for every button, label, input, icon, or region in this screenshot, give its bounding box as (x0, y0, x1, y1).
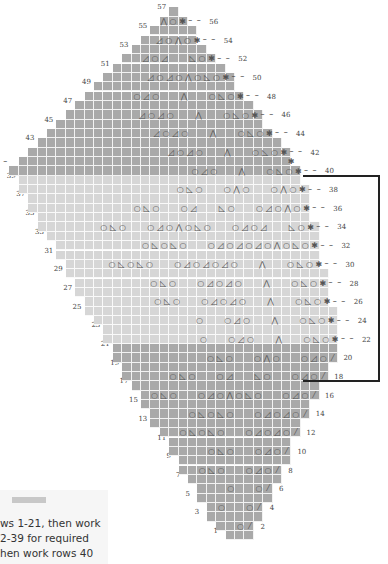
stitch-cell (244, 316, 253, 325)
stitch-cell (113, 222, 122, 231)
stitch-cell (75, 110, 84, 119)
stitch-cell (103, 120, 112, 129)
stitch-cell (273, 307, 282, 316)
stitch-cell (207, 363, 216, 372)
stitch-cell (188, 438, 197, 447)
stitch-cell (254, 391, 263, 400)
stitch-cell (132, 381, 141, 390)
stitch-cell (132, 353, 141, 362)
stitch-cell (207, 82, 216, 91)
stitch-cell (254, 269, 263, 278)
stitch-cell (113, 138, 122, 147)
stitch-cell (244, 522, 253, 531)
stitch-cell (273, 269, 282, 278)
stitch-cell (141, 391, 150, 400)
stitch-cell (263, 372, 272, 381)
stitch-cell (179, 157, 188, 166)
row-number-43: 43 (26, 134, 35, 142)
stitch-cell (226, 251, 235, 260)
stitch-cell (273, 391, 282, 400)
stitch-cell (122, 157, 131, 166)
row-number-46: 46 (282, 111, 291, 119)
stitch-cell (254, 466, 263, 475)
stitch-cell (150, 222, 159, 231)
stitch-cell (207, 428, 216, 437)
stitch-cell (38, 138, 47, 147)
stitch-cell (216, 475, 225, 484)
stitch-cell (160, 391, 169, 400)
stitch-cell (226, 82, 235, 91)
stitch-cell (235, 484, 244, 493)
stitch-cell (66, 194, 75, 203)
stitch-cell (169, 297, 178, 306)
stitch-cell (141, 400, 150, 409)
stitch-cell (254, 400, 263, 409)
stitch-cell (188, 241, 197, 250)
stitch-cell (263, 204, 272, 213)
row-number-42: 42 (311, 149, 320, 157)
stitch-cell (216, 335, 225, 344)
stitch-cell (150, 381, 159, 390)
stitch-cell (179, 166, 188, 175)
stitch-cell (75, 251, 84, 260)
stitch-cell (226, 391, 235, 400)
stitch-cell (179, 101, 188, 110)
stitch-cell (66, 110, 75, 119)
stitch-cell (273, 363, 282, 372)
stitch-cell (235, 138, 244, 147)
stitch-cell (226, 428, 235, 437)
stitch-cell (75, 269, 84, 278)
stitch-cell (132, 73, 141, 82)
stitch-cell (188, 194, 197, 203)
stitch-cell (179, 335, 188, 344)
stitch-cell (179, 185, 188, 194)
stitch-cell (122, 325, 131, 334)
stitch-cell (169, 316, 178, 325)
stitch-cell (160, 307, 169, 316)
stitch-cell (179, 54, 188, 63)
stitch-cell (141, 157, 150, 166)
stitch-cell (160, 26, 169, 35)
stitch-cell (169, 344, 178, 353)
stitch-cell (301, 381, 310, 390)
stitch-cell (103, 241, 112, 250)
stitch-cell (169, 307, 178, 316)
stitch-cell (132, 260, 141, 269)
stitch-cell (188, 138, 197, 147)
stitch-cell (197, 456, 206, 465)
stitch-cell (254, 241, 263, 250)
stitch-cell (254, 419, 263, 428)
row-number-49: 49 (82, 78, 91, 86)
stitch-cell (188, 120, 197, 129)
stitch-cell (226, 484, 235, 493)
stitch-cell (94, 110, 103, 119)
row-number-3: 3 (195, 508, 199, 516)
stitch-cell (113, 335, 122, 344)
stitch-cell (141, 194, 150, 203)
stitch-cell (85, 241, 94, 250)
stitch-cell (310, 391, 319, 400)
stitch-cell (235, 213, 244, 222)
stitch-cell (207, 447, 216, 456)
stitch-cell (169, 372, 178, 381)
row-dash-marker: – – (275, 129, 289, 137)
stitch-cell (132, 363, 141, 372)
stitch-cell (244, 222, 253, 231)
stitch-cell (226, 522, 235, 531)
stitch-cell (169, 419, 178, 428)
stitch-cell (169, 185, 178, 194)
stitch-cell (160, 129, 169, 138)
stitch-cell (244, 456, 253, 465)
stitch-cell (282, 381, 291, 390)
stitch-cell (197, 101, 206, 110)
stitch-cell (150, 194, 159, 203)
stitch-cell (28, 176, 37, 185)
stitch-cell (235, 260, 244, 269)
stitch-cell (188, 260, 197, 269)
stitch-cell (235, 92, 244, 101)
stitch-cell (226, 120, 235, 129)
stitch-cell (226, 372, 235, 381)
row-number-10: 10 (297, 448, 306, 456)
stitch-cell (244, 363, 253, 372)
stitch-cell (47, 157, 56, 166)
